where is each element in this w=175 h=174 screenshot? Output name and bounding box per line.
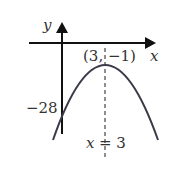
symmetry-label-eq: = 3 xyxy=(99,134,126,152)
y-axis-label: y xyxy=(42,16,52,34)
symmetry-label-x: x xyxy=(86,134,95,152)
x-axis-label: x xyxy=(150,47,159,65)
parabola-diagram: y x (3, −1) −28 x = 3 xyxy=(0,0,175,174)
y-axis-arrow-icon xyxy=(56,22,68,33)
vertex-label: (3, −1) xyxy=(83,47,136,65)
y-intercept-label: −28 xyxy=(26,99,58,117)
